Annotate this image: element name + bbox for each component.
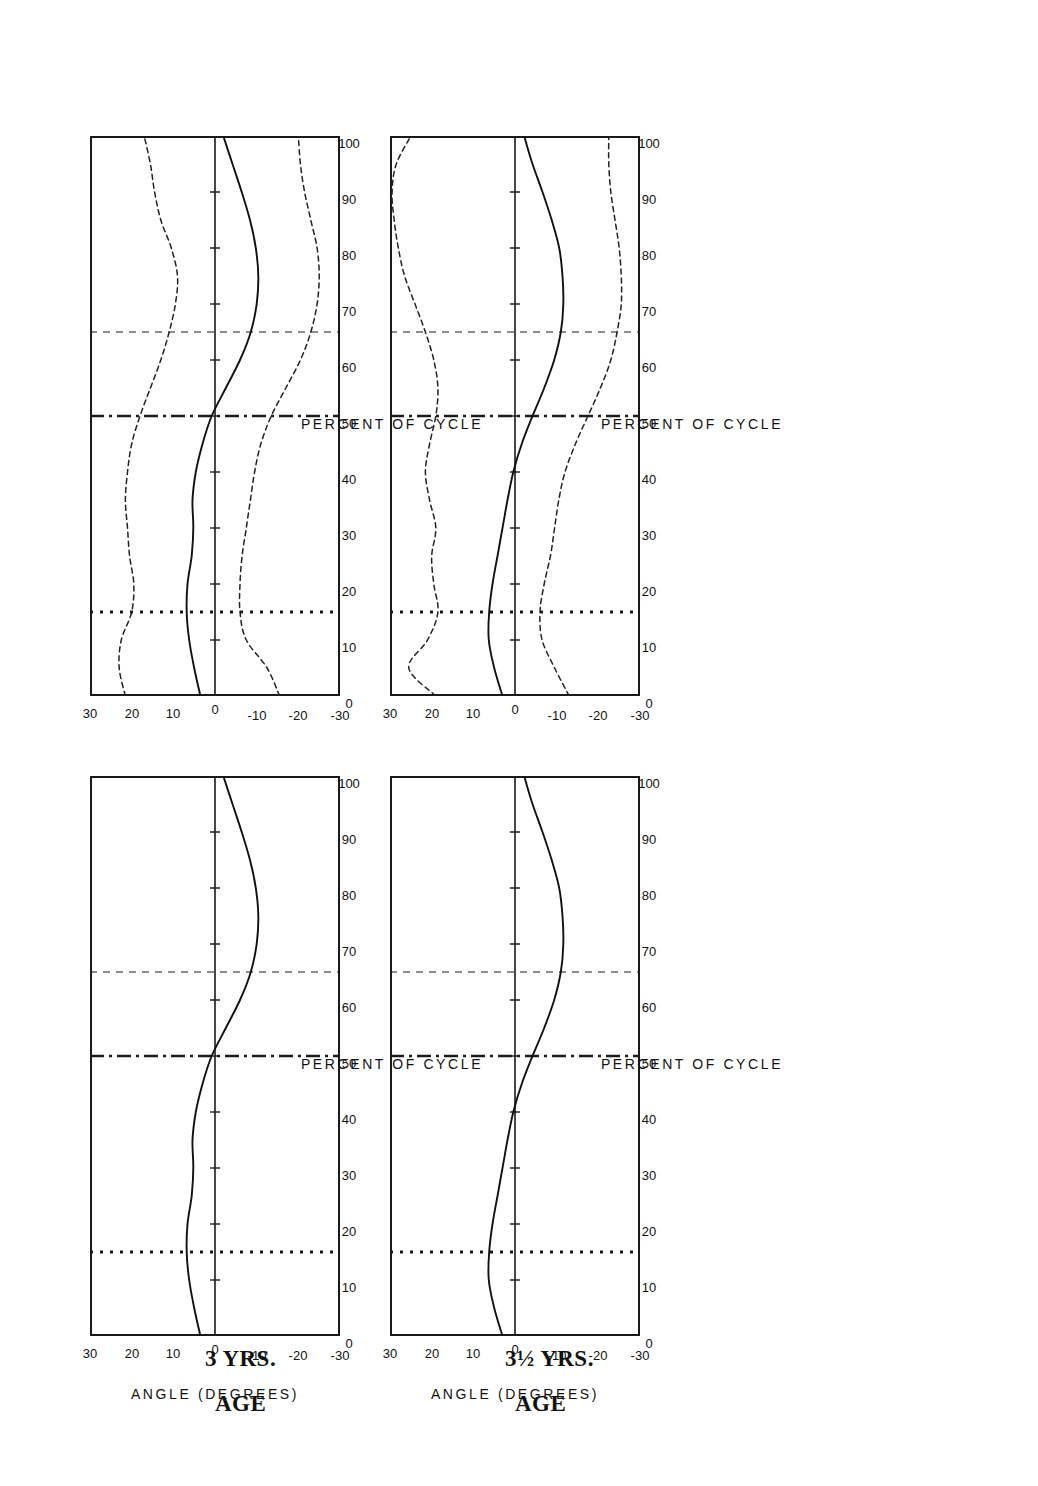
y-axis-tick-label: 10 [166,706,180,721]
y-axis-tick-label: 0 [211,1342,218,1357]
y-axis-tick-label: -20 [589,708,608,723]
x-axis-tick-label: 10 [642,640,656,655]
x-axis-tick-label: 20 [342,584,356,599]
x-axis-label: PERCENT OF CYCLE [301,1056,483,1072]
y-axis-tick-label: 30 [383,706,397,721]
y-axis-tick-label: -30 [631,1348,650,1363]
x-axis-label: PERCENT OF CYCLE [601,416,783,432]
x-axis-tick-label: 40 [642,472,656,487]
y-axis-tick-label: -10 [247,708,266,723]
x-axis-tick-label: 40 [342,472,356,487]
scanned-figure-page: FEMORAL ROTATION AGE 3 YRS. AGE 3½ YRS. … [0,0,1038,1486]
y-axis-tick-label: 20 [424,706,438,721]
x-axis-tick-label: 30 [642,528,656,543]
y-axis-tick-label: 0 [211,702,218,717]
x-axis-tick-label: 30 [342,1168,356,1183]
y-axis-label: ANGLE (DEGREES) [131,1386,299,1402]
x-axis-tick-label: 90 [642,832,656,847]
x-axis-tick-label: 40 [342,1112,356,1127]
x-axis-tick-label: 20 [642,1224,656,1239]
x-axis-label: PERCENT OF CYCLE [301,416,483,432]
x-axis-tick-label: 70 [342,944,356,959]
x-axis-tick-label: 10 [342,1280,356,1295]
x-axis-tick-label: 100 [638,136,660,151]
x-axis-tick-label: 100 [338,136,360,151]
x-axis-tick-label: 20 [642,584,656,599]
y-axis-tick-label: 10 [166,1346,180,1361]
x-axis-tick-label: 10 [342,640,356,655]
y-axis-tick-label: 20 [424,1346,438,1361]
y-axis-tick-label: -10 [247,1348,266,1363]
x-axis-tick-label: 60 [642,360,656,375]
x-axis-tick-label: 100 [338,776,360,791]
x-axis-tick-label: 60 [642,1000,656,1015]
y-axis-tick-label: 30 [383,1346,397,1361]
x-axis-tick-label: 80 [342,248,356,263]
x-axis-label: PERCENT OF CYCLE [601,1056,783,1072]
x-axis-tick-label: 60 [342,1000,356,1015]
x-axis-tick-label: 80 [342,888,356,903]
y-axis-tick-label: -20 [289,708,308,723]
y-axis-tick-label: 10 [466,1346,480,1361]
x-axis-tick-label: 10 [642,1280,656,1295]
x-axis-tick-label: 70 [642,304,656,319]
x-axis-tick-label: 40 [642,1112,656,1127]
y-axis-label: ANGLE (DEGREES) [431,1386,599,1402]
y-axis-tick-label: 30 [83,1346,97,1361]
y-axis-tick-label: -30 [631,708,650,723]
x-axis-tick-label: 30 [642,1168,656,1183]
y-axis-tick-label: 0 [511,1342,518,1357]
x-axis-tick-label: 20 [342,1224,356,1239]
x-axis-tick-label: 90 [342,192,356,207]
y-axis-tick-label: 30 [83,706,97,721]
y-axis-tick-label: 20 [124,706,138,721]
x-axis-tick-label: 80 [642,888,656,903]
y-axis-tick-label: 20 [124,1346,138,1361]
y-axis-tick-label: -20 [289,1348,308,1363]
x-axis-tick-label: 70 [342,304,356,319]
x-axis-tick-label: 30 [342,528,356,543]
y-axis-tick-label: -30 [331,708,350,723]
x-axis-tick-label: 80 [642,248,656,263]
y-axis-tick-label: -30 [331,1348,350,1363]
x-axis-tick-label: 60 [342,360,356,375]
x-axis-tick-label: 90 [642,192,656,207]
y-axis-tick-label: 0 [511,702,518,717]
y-axis-tick-label: 10 [466,706,480,721]
y-axis-tick-label: -10 [547,1348,566,1363]
x-axis-tick-label: 70 [642,944,656,959]
x-axis-tick-label: 100 [638,776,660,791]
y-axis-tick-label: -10 [547,708,566,723]
x-axis-tick-label: 90 [342,832,356,847]
y-axis-tick-label: -20 [589,1348,608,1363]
